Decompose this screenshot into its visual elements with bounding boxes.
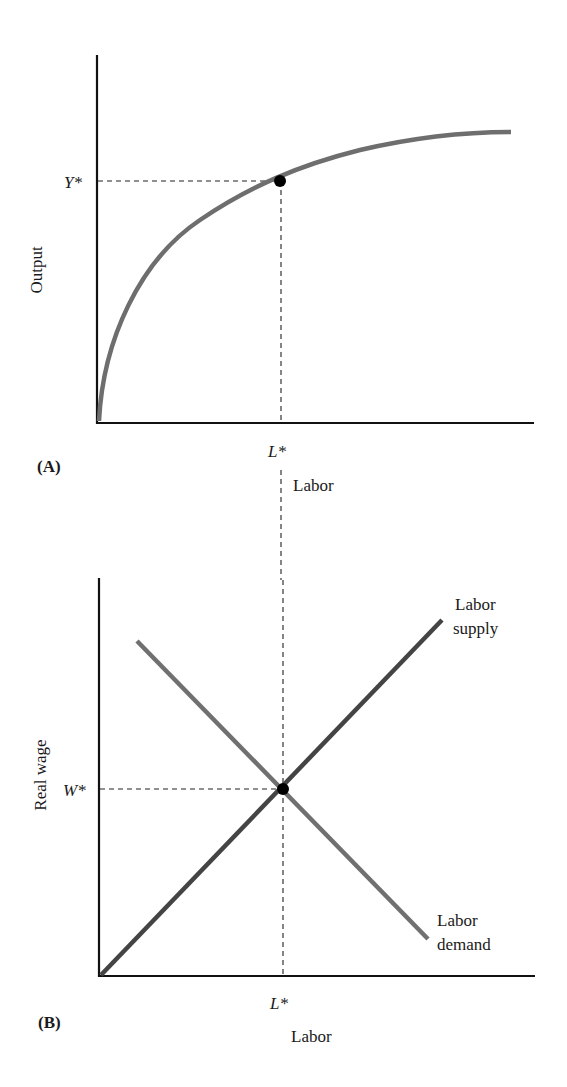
panel-a: Y* L* Labor Output (A) [27, 55, 534, 789]
panel-b-l-star-label: L* [269, 994, 288, 1013]
panel-a-x-axis-label: Labor [293, 476, 334, 495]
production-function-curve [99, 132, 511, 421]
figure: Y* L* Labor Output (A) W* L* Labor Real … [0, 0, 567, 1087]
panel-b-equilibrium-point [277, 783, 289, 795]
panel-b-w-star-label: W* [63, 781, 86, 800]
panel-a-l-star-label: L* [267, 442, 286, 461]
labor-supply-label-line2: supply [453, 619, 499, 638]
labor-demand-label-line2: demand [437, 935, 491, 954]
panel-a-label: (A) [37, 457, 61, 476]
panel-a-y-star-label: Y* [64, 173, 82, 192]
panel-b: W* L* Labor Real wage (B) Labor supply L… [31, 578, 535, 1046]
panel-a-y-axis-label: Output [27, 246, 46, 294]
panel-b-label: (B) [38, 1013, 61, 1032]
labor-supply-label-line1: Labor [455, 595, 496, 614]
labor-supply-line [101, 620, 442, 975]
labor-demand-label-line1: Labor [437, 911, 478, 930]
panel-b-y-axis-label: Real wage [31, 739, 50, 810]
panel-b-x-axis-label: Labor [291, 1027, 332, 1046]
panel-a-equilibrium-point [274, 175, 286, 187]
